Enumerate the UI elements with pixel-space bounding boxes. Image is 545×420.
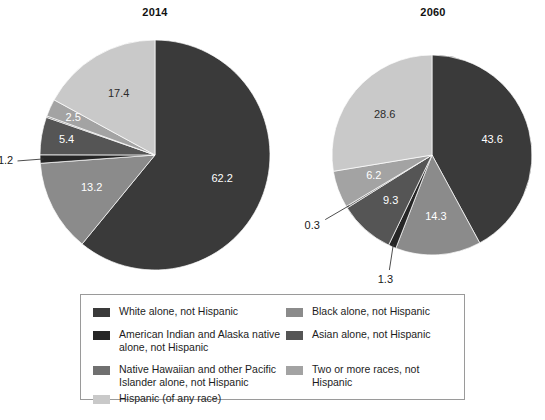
leader-line-nhpi (325, 206, 349, 220)
pie-value-label-hispanic: 17.4 (108, 87, 129, 99)
legend-grid: White alone, not Hispanic American India… (81, 295, 464, 399)
legend-label-black: Black alone, not Hispanic (312, 305, 430, 318)
pie-value-label-white: 62.2 (211, 172, 232, 184)
legend-swatch-black (286, 308, 303, 317)
leader-line-amind (18, 159, 44, 161)
legend-item-two-or-more: Two or more races, not Hispanic (286, 363, 462, 388)
legend-item-american-indian: American Indian and Alaska native alone,… (93, 328, 285, 353)
leader-line-amind (389, 244, 393, 270)
legend-swatch-white (93, 308, 110, 317)
pie-value-label-asian: 9.3 (383, 194, 398, 206)
pie-value-label-black: 13.2 (81, 181, 102, 193)
legend-label-hispanic: Hispanic (of any race) (119, 392, 221, 405)
pie-value-label-black: 14.3 (425, 210, 446, 222)
pie-value-label-amind: 1.2 (0, 154, 13, 166)
pie-value-label-white: 43.6 (481, 133, 502, 145)
legend-label-native-hawaiian: Native Hawaiian and other Pacific Island… (119, 363, 276, 388)
pie-value-label-hispanic: 28.6 (374, 108, 395, 120)
pie-chart-2014: 62.213.21.25.42.517.4 (38, 30, 278, 280)
legend-swatch-native-hawaiian (93, 366, 110, 375)
pie-title-2060: 2060 (388, 6, 478, 18)
pie-title-2014: 2014 (110, 6, 200, 18)
legend-swatch-asian (286, 331, 303, 340)
pie-value-label-twoplus: 6.2 (366, 169, 381, 181)
legend-item-black: Black alone, not Hispanic (286, 305, 462, 318)
legend-swatch-two-or-more (286, 366, 303, 375)
pie-value-label-asian: 5.4 (59, 133, 74, 145)
pie-value-label-amind: 1.3 (378, 273, 393, 285)
chart-legend: White alone, not Hispanic American India… (80, 294, 465, 400)
pie-chart-2060: 43.614.31.39.30.36.228.6 (330, 30, 540, 280)
legend-label-asian: Asian alone, not Hispanic (312, 328, 431, 341)
legend-label-two-or-more: Two or more races, not Hispanic (312, 363, 462, 388)
legend-item-asian: Asian alone, not Hispanic (286, 328, 462, 341)
legend-label-white: White alone, not Hispanic (119, 305, 238, 318)
pie-value-label-twoplus: 2.5 (66, 111, 81, 123)
legend-item-white: White alone, not Hispanic (93, 305, 285, 318)
legend-item-hispanic: Hispanic (of any race) (93, 392, 285, 405)
legend-label-american-indian: American Indian and Alaska native alone,… (119, 328, 280, 353)
pie-value-label-nhpi: 0.3 (305, 219, 320, 231)
legend-swatch-american-indian (93, 331, 110, 340)
chart-canvas: 2014 2060 62.213.21.25.42.517.4 43.614.3… (0, 0, 545, 420)
legend-swatch-hispanic (93, 395, 110, 404)
legend-item-native-hawaiian: Native Hawaiian and other Pacific Island… (93, 363, 285, 388)
